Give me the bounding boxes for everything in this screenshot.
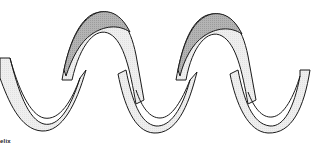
figure-caption: elix — [0, 137, 11, 145]
ribbon-segment-arch-1 — [62, 12, 144, 104]
ribbon-segment-right-trough — [230, 70, 310, 133]
helix-ribbon-illustration — [0, 0, 321, 146]
